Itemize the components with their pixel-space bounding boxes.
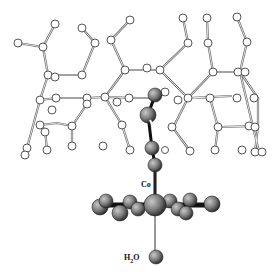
- framework-atoms: [14, 13, 266, 159]
- framework-bonds-inner: [18, 17, 263, 155]
- cobalt-label: Co: [141, 180, 151, 189]
- water-label: H2O: [124, 253, 139, 264]
- water-subscript: 2: [130, 258, 133, 264]
- molecule-structure: [0, 0, 280, 279]
- framework-bonds: [18, 17, 263, 155]
- water-oxygen-atom: [149, 250, 163, 264]
- porphyrin-ring: [92, 193, 220, 221]
- molecule-diagram: Co H2O: [0, 0, 280, 279]
- alkyl-chain: [140, 88, 169, 195]
